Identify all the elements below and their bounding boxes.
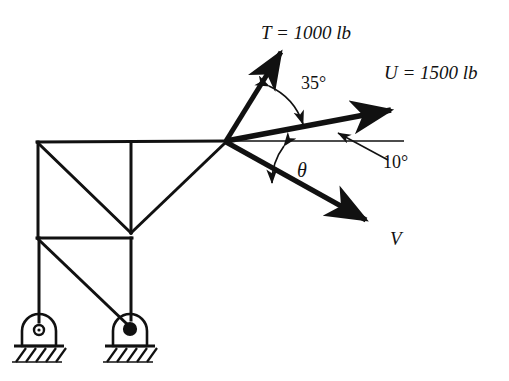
diagram-canvas: [0, 0, 509, 381]
truss-joint-diagonal: [131, 142, 226, 233]
angle-label-10: 10°: [383, 152, 408, 173]
left-support-pin-center-icon: [37, 328, 40, 331]
angle-arc-35: [269, 86, 303, 124]
truss-upper-diagonal: [38, 143, 131, 233]
truss-structure: [37, 141, 226, 326]
angle-leader-10: [338, 133, 388, 160]
force-vector-T: [226, 52, 281, 141]
force-label-T: T = 1000 lb: [261, 22, 351, 44]
force-vector-U: [226, 110, 391, 141]
truss-lower-diagonal: [38, 239, 129, 326]
force-vector-V: [226, 142, 366, 220]
statics-figure: T = 1000 lb U = 1500 lb V 35° 10° θ: [0, 0, 509, 381]
angle-label-35: 35°: [301, 73, 326, 94]
force-label-U: U = 1500 lb: [384, 62, 478, 84]
angle-arc-theta: [272, 146, 284, 183]
force-label-V: V: [390, 228, 402, 250]
left-support-hatching: [12, 348, 66, 362]
right-support-hatching: [103, 348, 157, 362]
angle-label-theta: θ: [297, 159, 307, 182]
right-support-pin-icon: [124, 323, 136, 335]
